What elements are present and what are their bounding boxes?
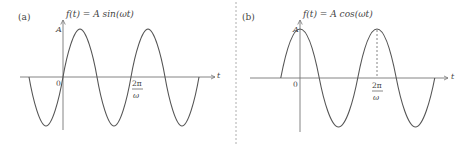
panel-a-tick-den: ω <box>133 91 139 100</box>
panel-a <box>20 20 215 130</box>
panel-b-y-label: A <box>292 25 299 34</box>
panel-b-tag: (b) <box>242 12 255 22</box>
panel-a-x-label: t <box>217 71 221 80</box>
panel-a-origin-label: 0 <box>56 79 61 88</box>
panel-b-formula: f(t) = A cos(ωt) <box>302 9 373 19</box>
panel-a-y-label: A <box>55 25 62 34</box>
panel-a-formula: f(t) = A sin(ωt) <box>65 9 134 19</box>
panel-b-tick-num: 2π <box>372 81 382 90</box>
panel-b <box>250 20 448 132</box>
panel-a-tick-num: 2π <box>132 79 142 88</box>
panel-b-tick-den: ω <box>373 93 379 102</box>
panel-a-tag: (a) <box>18 12 30 22</box>
sine-curve <box>29 29 199 126</box>
panel-b-x-label: t <box>451 72 455 81</box>
panel-b-origin-label: 0 <box>293 80 298 89</box>
